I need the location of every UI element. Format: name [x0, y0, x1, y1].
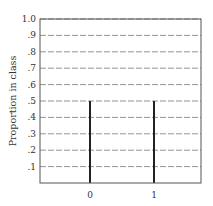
x-tick-label: 1 — [151, 190, 157, 200]
y-tick-label: .8 — [27, 47, 36, 57]
y-tick-label: .9 — [27, 30, 36, 40]
y-tick-label: .5 — [27, 96, 36, 106]
y-tick-label: .4 — [27, 112, 36, 122]
y-tick-label: .7 — [27, 63, 36, 73]
bar-chart: .1.2.3.4.5.6.7.8.91.0 01 Proportion in c… — [0, 0, 213, 206]
x-tick-label: 0 — [87, 190, 93, 200]
y-axis-title: Proportion in class — [7, 56, 18, 147]
x-axis-tick-labels: 01 — [87, 190, 157, 200]
bars — [90, 101, 154, 183]
y-tick-label: .2 — [27, 145, 36, 155]
y-tick-label: .6 — [27, 80, 36, 90]
y-axis-tick-labels: .1.2.3.4.5.6.7.8.91.0 — [22, 14, 37, 172]
y-tick-label: .1 — [27, 162, 36, 172]
gridlines — [40, 19, 201, 167]
y-tick-label: 1.0 — [22, 14, 37, 24]
y-tick-label: .3 — [27, 129, 36, 139]
